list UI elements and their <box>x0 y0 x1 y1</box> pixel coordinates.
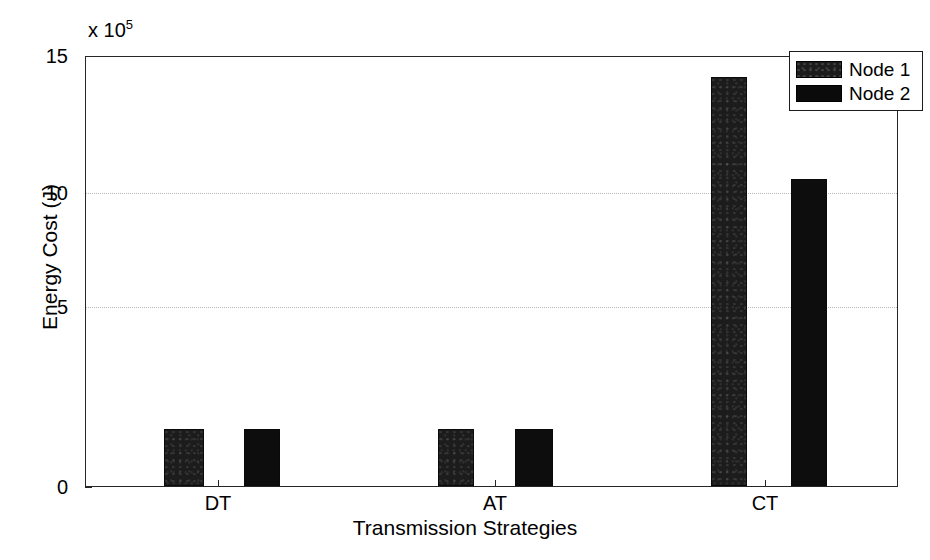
bar-at-node2 <box>515 429 553 486</box>
x-tick-label-at: AT <box>455 492 535 514</box>
gridline-10 <box>86 193 897 194</box>
x-tick-mark-dt <box>218 480 219 487</box>
bar-at-node1 <box>438 429 474 486</box>
bar-dt-node2 <box>244 429 280 486</box>
legend-swatch-node2-icon <box>796 85 842 102</box>
y-tick-mark-0 <box>85 487 92 488</box>
legend-entry-node1: Node 1 <box>796 57 916 81</box>
y-axis-exponent: x 105 <box>88 18 133 40</box>
chart-legend: Node 1 Node 2 <box>789 51 923 111</box>
x-tick-mark-ct <box>765 480 766 487</box>
chart-figure: x 105 15 10 5 0 DT AT CT Transmission St… <box>0 0 930 560</box>
y-tick-label-0: 0 <box>30 477 68 497</box>
legend-label-node1: Node 1 <box>849 60 910 79</box>
x-tick-label-ct: CT <box>725 492 805 514</box>
bar-ct-node1 <box>711 77 747 486</box>
plot-area <box>85 56 898 487</box>
y-axis-exponent-base: x 10 <box>88 19 126 41</box>
legend-entry-node2: Node 2 <box>796 81 916 105</box>
bar-dt-node1 <box>164 429 204 486</box>
x-axis-title: Transmission Strategies <box>0 516 930 540</box>
x-tick-label-dt: DT <box>178 492 258 514</box>
x-tick-mark-at <box>495 480 496 487</box>
legend-label-node2: Node 2 <box>849 84 910 103</box>
gridline-5 <box>86 307 897 308</box>
legend-swatch-node1-icon <box>796 61 842 78</box>
bar-ct-node2 <box>791 179 827 486</box>
y-axis-title: Energy Cost (J) <box>38 57 62 457</box>
y-axis-exponent-power: 5 <box>126 17 133 32</box>
